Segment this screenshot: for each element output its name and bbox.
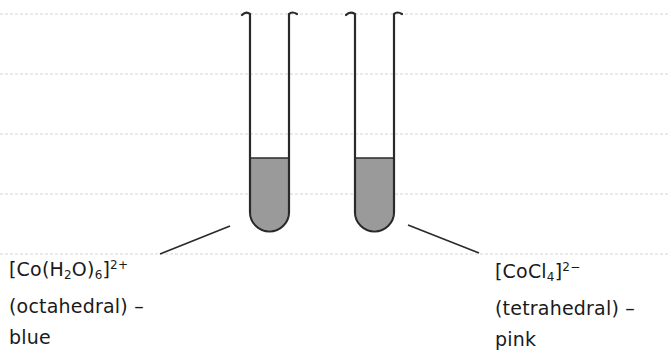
formula-hexaaquacobalt: [Co(H2O)6]2+ bbox=[9, 250, 144, 291]
formula-part: O) bbox=[72, 258, 95, 280]
liquid-left bbox=[251, 158, 288, 231]
colour-blue: blue bbox=[9, 322, 144, 353]
formula-tetrachlorocobaltate: [CoCl4]2− bbox=[495, 252, 635, 293]
formula-subscript: 4 bbox=[547, 270, 555, 284]
formula-part: ] bbox=[102, 258, 110, 280]
label-tetrachlorocobaltate: [CoCl4]2− (tetrahedral) – pink bbox=[495, 252, 635, 355]
ruled-lines bbox=[0, 14, 668, 254]
colour-pink: pink bbox=[495, 324, 635, 355]
test-tube-right bbox=[346, 13, 402, 232]
geometry-octahedral: (octahedral) – bbox=[9, 291, 144, 322]
label-hexaaquacobalt: [Co(H2O)6]2+ (octahedral) – blue bbox=[9, 250, 144, 353]
leader-line-left bbox=[160, 226, 230, 254]
formula-part: [Co(H bbox=[9, 258, 64, 280]
leader-line-right bbox=[408, 225, 479, 253]
formula-charge: 2− bbox=[562, 260, 580, 274]
formula-charge: 2+ bbox=[110, 258, 128, 272]
formula-subscript: 2 bbox=[64, 268, 72, 282]
test-tube-left bbox=[242, 13, 297, 232]
liquid-right bbox=[356, 158, 393, 231]
geometry-tetrahedral: (tetrahedral) – bbox=[495, 293, 635, 324]
formula-part: [CoCl bbox=[495, 260, 547, 282]
